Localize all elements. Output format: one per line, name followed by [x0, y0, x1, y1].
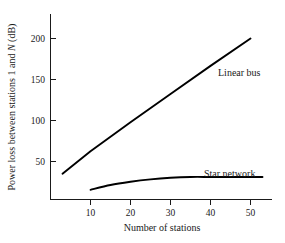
y-tick-label-50: 50 — [36, 157, 46, 167]
chart-plot-area: 200 150 100 50 10 20 30 40 50 Number of … — [0, 0, 285, 243]
x-tick-label-10: 10 — [86, 208, 96, 218]
x-axis-ticks — [91, 200, 251, 206]
series-line-linear-bus — [63, 39, 251, 174]
y-axis-title-post: (dB) — [6, 24, 18, 45]
series-label-linear-bus: Linear bus — [218, 67, 261, 78]
y-tick-label-200: 200 — [31, 34, 46, 44]
series-label-star-network: Star network — [204, 168, 255, 179]
chart-figure: 200 150 100 50 10 20 30 40 50 Number of … — [0, 0, 285, 243]
x-tick-label-20: 20 — [126, 208, 136, 218]
x-axis-title: Number of stations — [124, 222, 201, 233]
y-axis-title: Power loss between stations 1 and N (dB) — [6, 24, 18, 191]
x-tick-label-30: 30 — [166, 208, 176, 218]
x-tick-label-40: 40 — [206, 208, 216, 218]
y-axis-ticks — [51, 39, 57, 162]
y-tick-label-100: 100 — [31, 116, 46, 126]
y-tick-label-150: 150 — [31, 75, 46, 85]
y-axis-title-pre: Power loss between stations 1 and — [6, 51, 17, 190]
x-tick-label-50: 50 — [246, 208, 256, 218]
